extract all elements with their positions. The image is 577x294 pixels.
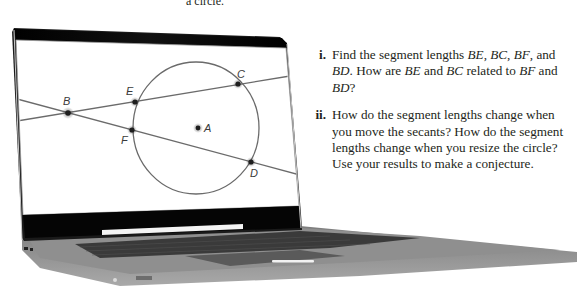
label-b: B	[63, 95, 70, 107]
question-text: Find the segment lengths BE, BC, BF, and…	[332, 47, 558, 95]
point-d[interactable]	[246, 157, 256, 167]
point-c[interactable]	[233, 79, 243, 89]
question-i: i. Find the segment lengths BE, BC, BF, …	[306, 47, 574, 96]
question-number: i.	[306, 47, 326, 63]
label-d: D	[250, 167, 258, 179]
label-e: E	[126, 85, 134, 97]
port-icon	[30, 248, 33, 251]
front-notch	[272, 260, 314, 263]
label-c: C	[237, 68, 245, 80]
port-icon	[24, 247, 28, 250]
question-number: ii.	[306, 107, 326, 123]
question-text: How do the segment lengths change when y…	[332, 107, 563, 171]
point-b[interactable]	[62, 107, 74, 119]
screen-display	[16, 40, 299, 215]
point-e[interactable]	[130, 97, 140, 107]
question-ii: ii. How do the segment lengths change wh…	[306, 107, 574, 173]
question-list: i. Find the segment lengths BE, BC, BF, …	[306, 47, 574, 184]
point-f[interactable]	[127, 125, 137, 135]
speaker-grille	[136, 276, 152, 280]
point-a[interactable]	[193, 123, 203, 133]
label-a: A	[203, 122, 211, 134]
